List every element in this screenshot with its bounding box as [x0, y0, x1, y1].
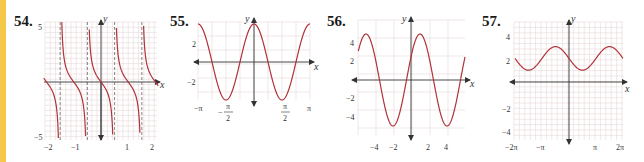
tick-label: 5	[38, 23, 42, 32]
graph-56: y x 4 2 −2 −4 −4 −2 2 4	[346, 13, 475, 152]
tick-label: −4	[370, 143, 379, 152]
tick-label: 2	[192, 40, 196, 49]
tick-label: −2	[44, 143, 53, 152]
tick-label: −2	[389, 143, 398, 152]
tick-label: 2	[150, 143, 154, 152]
tick-label: 4	[444, 143, 448, 152]
grid	[358, 20, 465, 135]
x-axis-label: x	[159, 79, 165, 90]
tick-label: −5	[34, 133, 43, 142]
y-axis-label: y	[102, 13, 108, 24]
graph-57: y x 4 2 −2 −4 −2π −π π 2π	[502, 13, 630, 152]
y-axis-label: y	[401, 13, 407, 24]
tick-label: π	[593, 143, 597, 152]
tick-label: 4	[506, 33, 510, 42]
tick-label: 2	[350, 57, 354, 66]
graph-55: y x 2 −2 −π − π 2 π 2 π	[187, 13, 319, 123]
tick-label: 2	[283, 114, 287, 123]
graph-54: y x 5 −5 −2 −1 1 2	[34, 13, 165, 152]
tick-label: 4	[350, 39, 354, 48]
tick-label: 2	[426, 143, 430, 152]
tick-label: −2	[502, 105, 511, 114]
tick-label: 1	[125, 143, 129, 152]
tick-label: π	[283, 102, 287, 111]
grid	[514, 22, 623, 140]
tick-label: π	[226, 102, 230, 111]
tick-label: −1	[71, 143, 80, 152]
tick-label: −2π	[505, 143, 518, 152]
y-axis-label: y	[570, 13, 576, 24]
x-axis-label: x	[624, 83, 630, 94]
tick-label: 2π	[616, 143, 624, 152]
tick-label: 2	[506, 57, 510, 66]
graphs-canvas: y x 5 −5 −2 −1 1 2 y x 2 −2 −π − π 2 π 2…	[0, 0, 644, 162]
x-axis-label: x	[469, 78, 475, 89]
tick-label: −2	[187, 78, 196, 87]
tick-label: −π	[536, 143, 545, 152]
x-axis-label: x	[313, 61, 319, 72]
tick-label: −2	[346, 94, 355, 103]
tick-label: π	[307, 104, 311, 113]
tick-label: −π	[194, 104, 203, 113]
tick-label: −4	[346, 113, 355, 122]
tick-label: −4	[502, 128, 511, 137]
y-axis-label: y	[244, 13, 250, 24]
tick-label: 2	[226, 114, 230, 123]
tick-label: −	[218, 108, 223, 117]
